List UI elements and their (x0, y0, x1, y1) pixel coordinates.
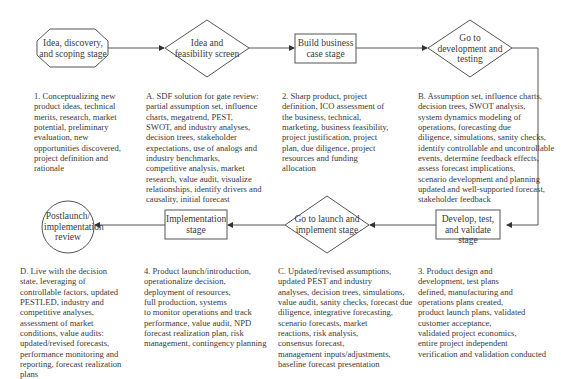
idea-feasibility-label: Idea and feasibility screen (172, 38, 242, 59)
go-to-development-label: Go to development and testing (437, 33, 503, 65)
implementation-label: Implementation stage (166, 214, 226, 235)
description-step-3: 3. Product design and development, test … (418, 266, 561, 359)
build-business-case-label: Build business case stage (297, 38, 354, 59)
description-step-4: 4. Product launch/introduction, operatio… (144, 266, 279, 349)
description-step-c: C. Updated/revised assumptions, updated … (278, 266, 413, 369)
go-to-launch-label: Go to launch and implement stage (290, 214, 364, 235)
postlaunch-review-label: Postlaunch/ implementation review (44, 211, 92, 243)
idea-discovery-label: Idea, discovery, and scoping stage (38, 38, 108, 59)
description-step-d: D. Live with the decision state, leverag… (20, 266, 140, 379)
description-step-a: A. SDF solution for gate review: partial… (146, 91, 286, 205)
description-step-1: 1. Conceptualizing new product ideas, te… (34, 91, 144, 174)
description-step-2: 2. Sharp product, project definition, IC… (282, 91, 412, 174)
description-step-b: B. Assumption set, influence charts, dec… (418, 91, 561, 205)
develop-test-validate-label: Develop, test, and validate stage (437, 214, 499, 246)
